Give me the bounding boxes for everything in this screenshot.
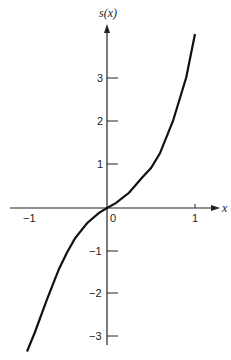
x-tick-label-0: 0 <box>110 212 116 224</box>
y-axis-label: s(x) <box>99 6 117 20</box>
x-tick-label-neg1: −1 <box>23 212 36 224</box>
y-tick-label-neg2: −2 <box>89 287 102 299</box>
x-axis-label: x <box>221 201 228 215</box>
y-tick-label-neg3: −3 <box>89 330 102 342</box>
y-tick-label-3: 3 <box>97 72 103 84</box>
y-tick-label-2: 2 <box>97 115 103 127</box>
x-axis-arrow-icon <box>211 205 220 211</box>
y-axis-arrow-icon <box>104 24 110 33</box>
s-curve <box>27 34 195 352</box>
x-tick-label-1: 1 <box>192 212 198 224</box>
y-tick-label-neg1: −1 <box>89 245 102 257</box>
y-axis: s(x) 3 2 1 −1 −2 −3 <box>89 6 118 345</box>
x-axis: x −1 0 1 <box>10 201 228 224</box>
chart: x −1 0 1 s(x) 3 2 1 −1 −2 −3 <box>0 0 231 360</box>
y-tick-label-1: 1 <box>97 158 103 170</box>
